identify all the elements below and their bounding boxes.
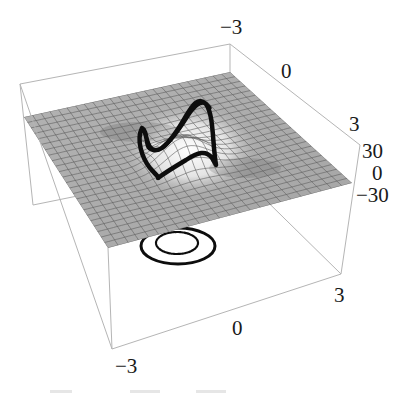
- cropped-caption-remnant: [50, 390, 226, 393]
- tick-x-min: −3: [115, 354, 137, 378]
- tick-y-max: 3: [349, 112, 360, 136]
- x-axis-ticks: 3 0 −3: [115, 283, 345, 378]
- tick-x-max: 3: [334, 283, 345, 307]
- tick-y-min: −3: [220, 15, 242, 39]
- surface-plot: −3 0 3 30 0 −30 3 0 −3: [0, 0, 420, 395]
- tick-z-mid: 0: [372, 161, 383, 185]
- tick-z-top: 30: [362, 139, 383, 163]
- tick-y-mid: 0: [281, 59, 292, 83]
- tick-x-mid: 0: [232, 316, 243, 340]
- z-axis-ticks: 30 0 −30: [356, 139, 389, 207]
- tick-z-bottom: −30: [356, 183, 389, 207]
